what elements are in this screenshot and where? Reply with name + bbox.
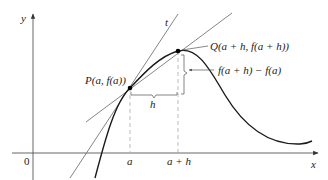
derivative-secant-diagram: y x 0 a a + h t P(a, f(a)) Q(a + h, f(a … <box>0 0 328 180</box>
tangent-label: t <box>165 16 169 28</box>
secant-line <box>86 13 232 122</box>
q-label-leader <box>182 46 208 50</box>
x-axis-label: x <box>310 158 316 170</box>
point-q-label: Q(a + h, f(a + h)) <box>210 40 289 53</box>
rise-bracket <box>181 55 187 94</box>
tick-label-a-plus-h: a + h <box>167 155 191 167</box>
h-label: h <box>150 98 156 110</box>
tick-label-a: a <box>127 155 133 167</box>
y-axis-label: y <box>20 12 26 24</box>
point-p <box>128 86 133 91</box>
point-p-label: P(a, f(a)) <box>84 74 126 87</box>
point-q <box>176 49 181 54</box>
origin-label: 0 <box>24 155 30 167</box>
rise-label: f(a + h) − f(a) <box>218 64 281 77</box>
